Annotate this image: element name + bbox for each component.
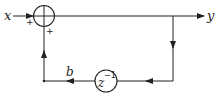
block-diagram: x + + y z −1 b — [0, 0, 219, 98]
input-label: x — [4, 8, 12, 23]
sum-sign-bottom: + — [46, 26, 54, 36]
gain-label: b — [66, 65, 74, 79]
unit-delay-block: z −1 — [95, 70, 117, 92]
sum-sign-left: + — [26, 17, 34, 27]
output-label: y — [206, 8, 215, 23]
delay-label-exp: −1 — [104, 71, 116, 80]
summing-junction — [34, 6, 55, 27]
